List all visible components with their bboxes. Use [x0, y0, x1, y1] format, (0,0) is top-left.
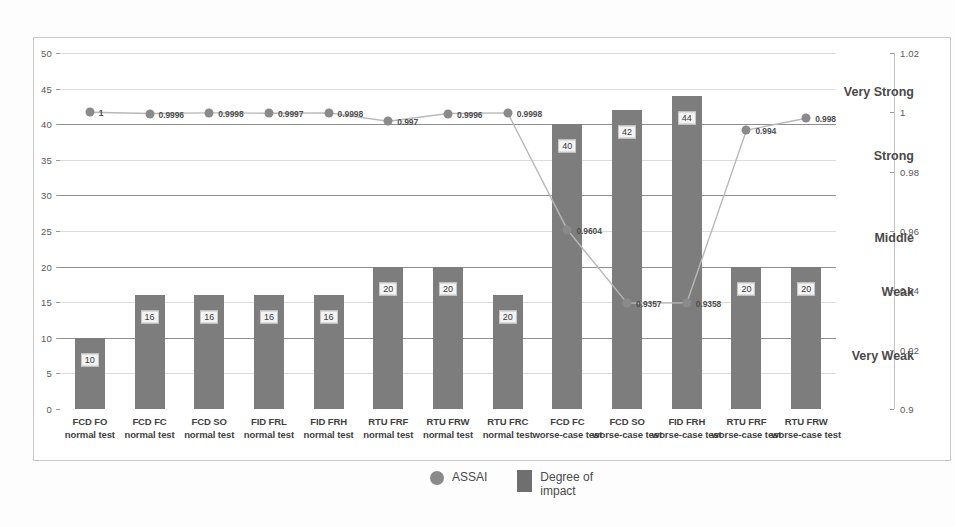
left-axis-tick-label: 15: [12, 297, 52, 308]
left-axis-tick-label: 50: [12, 48, 52, 59]
left-axis-tick-mark: [56, 89, 60, 90]
assai-line: [90, 112, 806, 303]
left-axis-tick-mark: [56, 195, 60, 196]
line-series-path: [60, 53, 836, 409]
x-axis-label-line: worse-case test: [767, 429, 845, 442]
band-label: Very Weak: [840, 349, 914, 363]
left-axis-tick-mark: [56, 124, 60, 125]
data-point-marker: [742, 126, 751, 135]
left-axis-tick-label: 40: [12, 119, 52, 130]
legend-item[interactable]: Degree of impact: [517, 470, 614, 498]
left-axis-tick-mark: [56, 231, 60, 232]
data-point-label: 0.9997: [278, 109, 303, 119]
data-point-label: 0.9996: [457, 110, 482, 120]
left-axis-tick-label: 0: [12, 404, 52, 415]
left-axis-tick-label: 35: [12, 154, 52, 165]
data-point-label: 0.9998: [218, 109, 243, 119]
right-axis-tick-mark: [890, 409, 894, 410]
legend-label: ASSAI: [452, 470, 487, 484]
right-axis-tick-label: 0.9: [900, 404, 942, 415]
band-label: Strong: [840, 149, 914, 163]
plot-area: 10161616162020204042442020 10.99960.9998…: [60, 53, 836, 409]
right-axis-tick-label: 0.98: [900, 166, 942, 177]
legend-square-icon: [517, 470, 532, 492]
left-axis-tick-mark: [56, 373, 60, 374]
data-point-marker: [444, 109, 453, 118]
left-axis-tick-mark: [56, 302, 60, 303]
data-point-marker: [802, 114, 811, 123]
band-label: Weak: [840, 285, 914, 299]
right-axis-tick-mark: [890, 172, 894, 173]
data-point-marker: [623, 299, 632, 308]
data-point-label: 0.998: [815, 114, 836, 124]
data-point-label: 0.997: [397, 117, 418, 127]
data-point-label: 0.994: [755, 126, 776, 136]
right-axis-tick-mark: [890, 53, 894, 54]
band-label: Middle: [840, 231, 914, 245]
legend-item[interactable]: ASSAI: [430, 470, 487, 485]
left-axis-tick-mark: [56, 338, 60, 339]
right-axis-tick-label: 1.02: [900, 48, 942, 59]
x-axis-label: RTU FRWworse-case test: [767, 416, 845, 441]
data-point-marker: [682, 298, 691, 307]
x-axis-label-line: RTU FRW: [767, 416, 845, 429]
left-axis-tick-label: 10: [12, 332, 52, 343]
legend-label: Degree of impact: [540, 470, 614, 498]
chart-figure: 10161616162020204042442020 10.99960.9998…: [0, 0, 955, 527]
band-label: Very Strong: [840, 85, 914, 99]
data-point-marker: [503, 108, 512, 117]
left-axis-tick-label: 5: [12, 368, 52, 379]
right-axis-tick-label: 1: [900, 107, 942, 118]
data-point-marker: [85, 108, 94, 117]
left-axis-tick-mark: [56, 160, 60, 161]
data-point-marker: [205, 108, 214, 117]
left-axis-tick-label: 30: [12, 190, 52, 201]
data-point-marker: [563, 225, 572, 234]
data-point-label: 0.9358: [696, 299, 721, 309]
left-axis-tick-mark: [56, 409, 60, 410]
data-point-marker: [324, 108, 333, 117]
left-axis-tick-mark: [56, 53, 60, 54]
data-point-label: 0.9998: [517, 109, 542, 119]
data-point-marker: [384, 117, 393, 126]
left-axis-tick-label: 45: [12, 83, 52, 94]
data-point-label: 0.9357: [636, 299, 661, 309]
right-axis-tick-mark: [890, 112, 894, 113]
data-point-label: 0.9996: [159, 110, 184, 120]
data-point-marker: [145, 109, 154, 118]
chart-legend: ASSAIDegree of impact: [430, 470, 614, 498]
data-point-label: 0.9604: [576, 226, 601, 236]
left-axis-tick-label: 20: [12, 261, 52, 272]
data-point-label: 0.9998: [338, 109, 363, 119]
data-point-label: 1: [99, 108, 104, 118]
left-axis-tick-label: 25: [12, 226, 52, 237]
data-point-marker: [264, 109, 273, 118]
legend-circle-icon: [430, 471, 444, 485]
left-axis-tick-mark: [56, 267, 60, 268]
